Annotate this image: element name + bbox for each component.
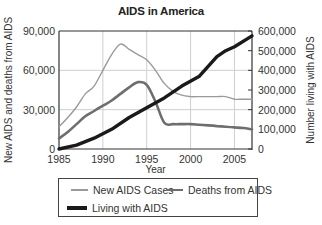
x-tick-label: 2000 bbox=[179, 153, 203, 165]
y-tick-label-right: 200,000 bbox=[258, 104, 296, 116]
legend-label: Deaths from AIDS bbox=[188, 184, 272, 196]
y-tick-label-right: 600,000 bbox=[258, 25, 296, 37]
series-line-living-with-aids bbox=[59, 36, 252, 149]
x-tick-label: 1985 bbox=[47, 153, 71, 165]
x-axis-label: Year bbox=[145, 164, 166, 175]
x-tick-label: 2005 bbox=[223, 153, 247, 165]
y-tick-label-left: 90,000 bbox=[23, 25, 55, 37]
series-line-deaths-from-aids bbox=[59, 82, 252, 139]
x-tick-label: 1990 bbox=[91, 153, 115, 165]
legend-label: New AIDS Cases bbox=[93, 184, 174, 196]
y-tick-label-right: 0 bbox=[258, 143, 264, 155]
legend-item-deaths-from-aids: Deaths from AIDS bbox=[166, 184, 272, 196]
legend: New AIDS Cases Deaths from AIDS Living w… bbox=[58, 178, 258, 217]
y-axis-label-left: New AIDS and deaths from AIDS bbox=[3, 17, 14, 164]
legend-item-new-aids-cases: New AIDS Cases bbox=[71, 184, 174, 196]
y-tick-label-right: 400,000 bbox=[258, 64, 296, 76]
y-tick-label-left: 60,000 bbox=[23, 64, 55, 76]
axes bbox=[59, 31, 252, 150]
y-tick-label-right: 100,000 bbox=[258, 123, 296, 135]
legend-swatch-living bbox=[67, 206, 87, 210]
y-tick-label-right: 300,000 bbox=[258, 84, 296, 96]
y-tick-label-left: 30,000 bbox=[23, 104, 55, 116]
legend-swatch-new-cases bbox=[71, 189, 88, 191]
y-tick-label-right: 500,000 bbox=[258, 45, 296, 57]
legend-swatch-deaths bbox=[166, 189, 183, 192]
data-lines bbox=[59, 36, 252, 149]
legend-label: Living with AIDS bbox=[92, 202, 168, 214]
gridlines bbox=[59, 31, 252, 149]
tick-labels: 0100,000200,000300,000400,000500,000600,… bbox=[3, 17, 316, 175]
legend-item-living-with-aids: Living with AIDS bbox=[67, 202, 168, 214]
y-axis-label-right: Number living with AIDS bbox=[305, 36, 316, 144]
